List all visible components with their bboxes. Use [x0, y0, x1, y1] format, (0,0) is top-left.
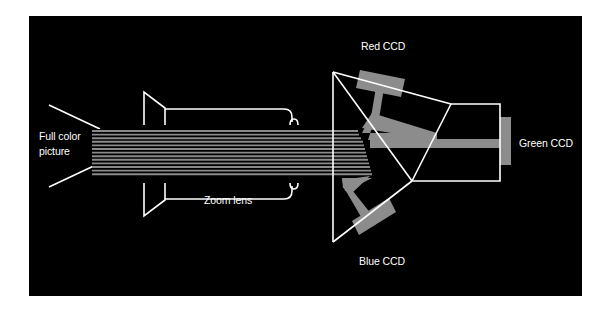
- source-label-line2: picture: [39, 144, 70, 159]
- red-path: [356, 70, 437, 141]
- blue-path: [342, 176, 396, 235]
- optical-diagram: [0, 0, 611, 310]
- source-label-line1: Full color: [39, 129, 81, 144]
- red-ccd-label: Red CCD: [361, 39, 405, 54]
- green-ccd: [500, 117, 511, 165]
- blue-ccd-label: Blue CCD: [359, 254, 405, 269]
- light-bundle: [92, 129, 372, 176]
- zoom-lens-label: Zoom lens: [204, 193, 252, 208]
- green-ccd-label: Green CCD: [519, 136, 573, 151]
